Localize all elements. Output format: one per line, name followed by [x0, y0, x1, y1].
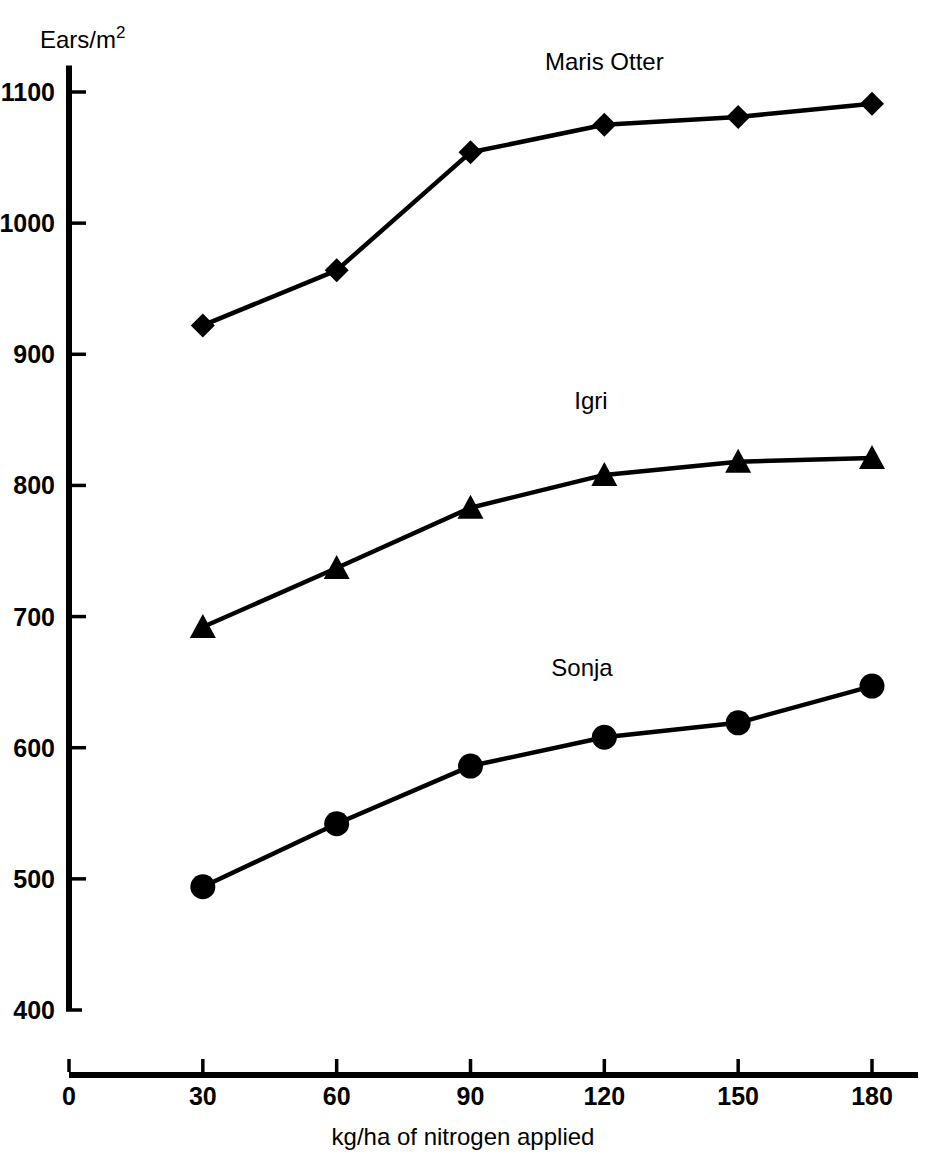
series-line-maris-otter	[203, 104, 872, 326]
series-label-maris-otter: Maris Otter	[545, 48, 664, 75]
y-axis-tick-label: 500	[13, 865, 55, 893]
y-axis-title-superscript: 2	[116, 23, 125, 42]
data-point-diamond	[726, 105, 750, 129]
y-axis-title: Ears/m2	[40, 23, 125, 53]
data-point-diamond	[191, 313, 215, 337]
series-labels-group: Maris OtterIgriSonja	[545, 48, 664, 681]
series-label-sonja: Sonja	[551, 654, 613, 681]
data-point-circle	[458, 754, 483, 779]
data-point-circle	[726, 710, 751, 735]
x-axis: 0306090120150180	[62, 1059, 918, 1110]
data-point-circle	[324, 811, 349, 836]
x-axis-title: kg/ha of nitrogen applied	[332, 1123, 595, 1150]
chart-container: 40050060070080090010001100 0306090120150…	[0, 0, 926, 1165]
data-point-diamond	[592, 113, 616, 137]
data-point-circle	[592, 725, 617, 750]
data-point-triangle	[324, 555, 350, 579]
y-axis-tick-label: 800	[13, 471, 55, 499]
x-axis-tick-label: 30	[189, 1082, 217, 1110]
x-axis-tick-label: 90	[457, 1082, 485, 1110]
y-axis-tick-label: 700	[13, 603, 55, 631]
line-chart-svg: 40050060070080090010001100 0306090120150…	[0, 0, 926, 1165]
y-axis-title-main: Ears/m	[40, 26, 116, 53]
x-axis-tick-label: 150	[717, 1082, 759, 1110]
series-label-igri: Igri	[574, 387, 607, 414]
x-axis-origin-label: 0	[62, 1082, 76, 1110]
series-line-sonja	[203, 686, 872, 887]
data-point-triangle	[190, 614, 216, 638]
data-point-diamond	[860, 92, 884, 116]
y-axis-tick-label: 1100	[1, 78, 55, 106]
x-axis-tick-label: 120	[583, 1082, 625, 1110]
y-axis-tick-label: 900	[13, 340, 55, 368]
y-axis-tick-label: 400	[13, 996, 55, 1024]
data-point-circle	[190, 874, 215, 899]
y-axis: 40050060070080090010001100	[0, 65, 86, 1024]
series-line-igri	[203, 458, 872, 627]
data-point-circle	[860, 674, 885, 699]
data-series-group	[190, 92, 885, 899]
x-axis-tick-label: 60	[323, 1082, 351, 1110]
y-axis-tick-label: 600	[13, 734, 55, 762]
y-axis-tick-label: 1000	[0, 209, 55, 237]
x-axis-tick-label: 180	[851, 1082, 893, 1110]
